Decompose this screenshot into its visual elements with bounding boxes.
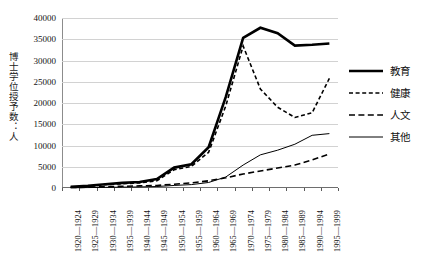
y-tick-label: 10000 [34, 141, 57, 150]
legend-label: 教育 [390, 65, 410, 77]
y-tick-label: 40000 [34, 14, 57, 23]
x-tickmark [79, 188, 80, 191]
x-tickmark [235, 188, 236, 191]
x-tickmark [166, 188, 167, 191]
x-tickmark [304, 188, 305, 191]
series-line-教育 [71, 28, 330, 187]
x-tick-label: 1925—1929 [91, 192, 100, 252]
x-axis-tick-labels: 1920—19241925—19291930—19341935—19391940… [62, 192, 338, 254]
x-tickmark [97, 188, 98, 191]
legend-label: 人文 [390, 109, 410, 121]
x-tickmark [269, 188, 270, 191]
x-tickmark [286, 188, 287, 191]
legend-label: 其他 [390, 131, 410, 143]
x-tickmark [338, 188, 339, 191]
y-tick-label: 0 [52, 184, 57, 193]
x-tick-label: 1985—1989 [298, 192, 307, 252]
legend-item-其他[interactable]: 其他 [348, 126, 432, 148]
y-tick-label: 15000 [34, 120, 57, 129]
x-tickmark [321, 188, 322, 191]
chart-legend: 教育健康人文其他 [348, 60, 432, 148]
y-axis-tick-labels: 0500010000150002000025000300003500040000 [18, 0, 58, 256]
y-tick-label: 30000 [34, 56, 57, 65]
x-tickmark [252, 188, 253, 191]
x-tick-label: 1980—1984 [281, 192, 290, 252]
legend-item-人文[interactable]: 人文 [348, 104, 432, 126]
legend-swatch-icon [348, 131, 384, 143]
x-tickmark [62, 188, 63, 191]
x-tick-label: 1955—1959 [195, 192, 204, 252]
legend-swatch-icon [348, 65, 384, 77]
x-tick-label: 1975—1979 [264, 192, 273, 252]
x-tickmark [183, 188, 184, 191]
x-tickmark [131, 188, 132, 191]
series-lines [62, 18, 338, 188]
x-tick-label: 1965—1969 [229, 192, 238, 252]
x-tick-label: 1950—1954 [178, 192, 187, 252]
legend-item-教育[interactable]: 教育 [348, 60, 432, 82]
x-tickmark [217, 188, 218, 191]
x-tick-label: 1960—1964 [212, 192, 221, 252]
y-tick-label: 25000 [34, 77, 57, 86]
x-tickmark [148, 188, 149, 191]
legend-swatch-icon [348, 109, 384, 121]
x-tick-label: 1930—1934 [109, 192, 118, 252]
x-tickmark [114, 188, 115, 191]
series-line-其他 [71, 134, 330, 188]
x-tick-label: 1995—1999 [333, 192, 342, 252]
legend-swatch-icon [348, 87, 384, 99]
y-axis-title: 博士学位授予数：人 [2, 28, 18, 166]
plot-area [62, 18, 338, 188]
x-tick-label: 1920—1924 [74, 192, 83, 252]
x-tick-label: 1970—1974 [247, 192, 256, 252]
x-tick-label: 1940—1944 [143, 192, 152, 252]
y-tick-label: 5000 [38, 162, 56, 171]
legend-item-健康[interactable]: 健康 [348, 82, 432, 104]
x-tickmark [200, 188, 201, 191]
x-tick-label: 1990—1994 [316, 192, 325, 252]
x-tick-label: 1945—1949 [160, 192, 169, 252]
legend-label: 健康 [390, 87, 410, 99]
y-tick-label: 20000 [34, 99, 57, 108]
x-tick-label: 1935—1939 [126, 192, 135, 252]
y-tick-label: 35000 [34, 35, 57, 44]
doctoral-degrees-line-chart: 博士学位授予数：人 050001000015000200002500030000… [0, 0, 433, 256]
